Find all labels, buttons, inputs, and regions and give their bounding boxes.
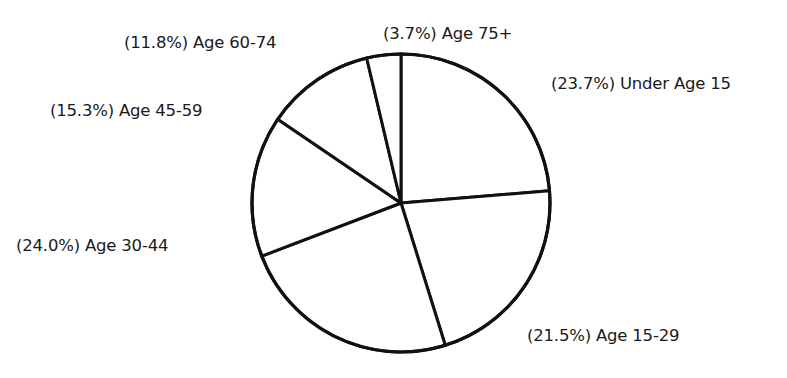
label-age-60-74: (11.8%) Age 60-74 <box>124 33 276 53</box>
label-age-45-59: (15.3%) Age 45-59 <box>50 101 202 121</box>
pie-slice-under-age-15 <box>401 54 550 203</box>
label-age-30-44: (24.0%) Age 30-44 <box>16 236 168 256</box>
label-under-age-15: (23.7%) Under Age 15 <box>551 74 731 94</box>
label-age-75-plus: (3.7%) Age 75+ <box>383 24 512 44</box>
label-age-15-29: (21.5%) Age 15-29 <box>527 326 679 346</box>
pie-chart: (23.7%) Under Age 15 (21.5%) Age 15-29 (… <box>0 0 787 378</box>
pie-chart-graphic <box>0 0 787 378</box>
